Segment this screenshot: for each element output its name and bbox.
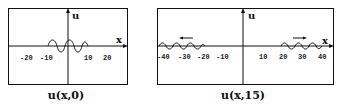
- tick-label: 30: [298, 53, 306, 61]
- right-arrow-icon: [293, 37, 307, 40]
- u-axis-label: u: [248, 10, 255, 21]
- panel-later: u x -40 -30 -20 -10 10 20 30 40 u(x,15): [157, 8, 334, 102]
- tick-label: 10: [259, 53, 267, 61]
- panel-initial: u x -20 -10 10 20 u(x,0): [8, 8, 128, 102]
- tick-label: -20: [197, 53, 210, 61]
- tick-label: 20: [279, 53, 287, 61]
- tick-label: -10: [40, 54, 53, 62]
- x-axis-label: x: [322, 35, 329, 46]
- u-axis-label: u: [72, 10, 79, 21]
- tick-label: -20: [20, 54, 33, 62]
- tick-label: -40: [157, 53, 170, 61]
- left-arrow-icon: [179, 37, 193, 40]
- tick-label: 20: [103, 54, 111, 62]
- tick-label: 10: [84, 54, 92, 62]
- panel-caption: u(x,15): [221, 89, 265, 102]
- x-axis-label: x: [116, 34, 123, 45]
- wave-propagation-diagram: u x -20 -10 10 20 u(x,0) u x -40 -30 -20…: [0, 0, 344, 106]
- tick-label: -30: [178, 53, 191, 61]
- tick-label: -10: [216, 53, 229, 61]
- tick-label: 40: [318, 53, 326, 61]
- panel-caption: u(x,0): [48, 89, 84, 102]
